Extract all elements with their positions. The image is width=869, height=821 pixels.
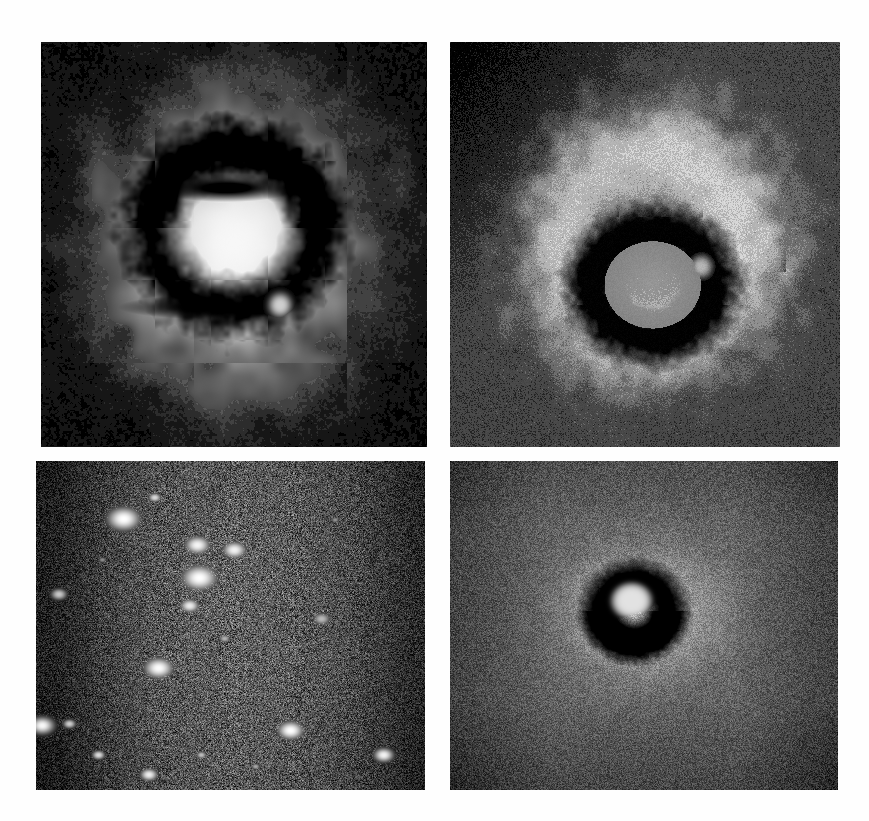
- panel-top-right-canvas: [450, 42, 840, 447]
- panel-bottom-right-canvas: [450, 461, 838, 790]
- panel-top-right: [450, 42, 840, 447]
- panel-bottom-right: [450, 461, 838, 790]
- panel-top-left: [41, 42, 427, 447]
- figure-root: [0, 0, 869, 821]
- panel-bottom-left: [36, 461, 425, 790]
- panel-top-left-canvas: [41, 42, 427, 447]
- panel-bottom-left-canvas: [36, 461, 425, 790]
